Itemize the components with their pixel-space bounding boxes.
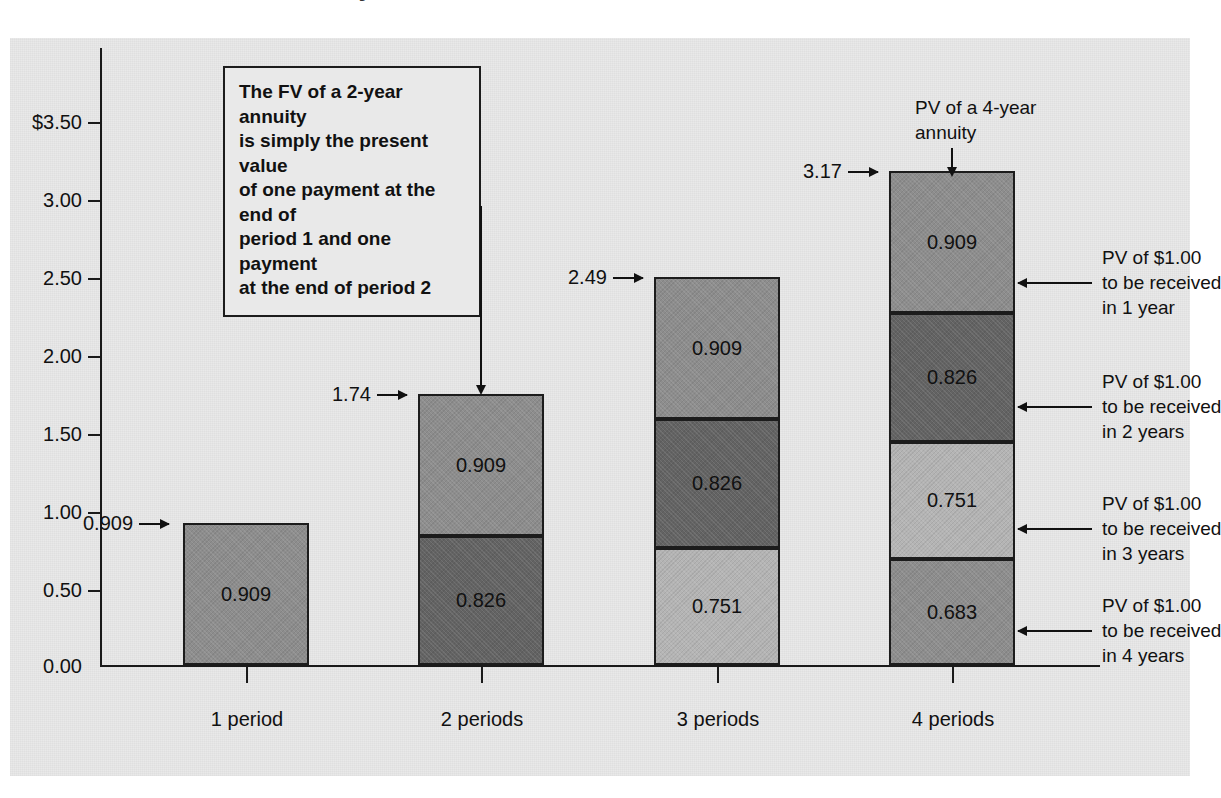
arrow-left-icon xyxy=(1018,528,1092,530)
x-category-label: 2 periods xyxy=(382,708,582,731)
annotation-pv-year-4: PV of $1.00 to be received in 4 years xyxy=(1018,593,1221,668)
annotation-text: PV of $1.00 to be received in 1 year xyxy=(1102,245,1221,320)
bar-3-periods[interactable]: 0.909 0.826 0.751 xyxy=(654,277,780,665)
annotation-line: in 2 years xyxy=(1102,421,1184,442)
arrow-down-icon xyxy=(951,148,953,168)
arrow-right-icon xyxy=(139,523,169,525)
annotation-text: PV of $1.00 to be received in 4 years xyxy=(1102,593,1221,668)
bar-segment-value: 0.683 xyxy=(927,601,977,624)
callout-connector-arrow-icon xyxy=(480,206,482,386)
annotation-pv-year-2: PV of $1.00 to be received in 2 years xyxy=(1018,369,1221,444)
arrow-left-icon xyxy=(1018,406,1092,408)
x-category-label: 3 periods xyxy=(618,708,818,731)
y-tick-mark xyxy=(88,356,102,358)
y-tick-mark xyxy=(88,590,102,592)
bar-segment-year2[interactable]: 0.826 xyxy=(418,536,544,665)
y-tick-mark xyxy=(88,278,102,280)
bar-segment-value: 0.909 xyxy=(927,231,977,254)
annotation-pv-year-3: PV of $1.00 to be received in 3 years xyxy=(1018,491,1221,566)
bar-segment-year2[interactable]: 0.826 xyxy=(889,313,1015,442)
bar-1-period[interactable]: 0.909 xyxy=(183,523,309,665)
x-tick-mark xyxy=(246,667,248,683)
y-tick-mark xyxy=(88,200,102,202)
arrow-left-icon xyxy=(1018,630,1092,632)
bar-segment-value: 0.909 xyxy=(221,583,271,606)
bar-segment-year2[interactable]: 0.826 xyxy=(654,419,780,548)
callout-box-fv-2-year-annuity: The FV of a 2-year annuity is simply the… xyxy=(223,66,481,317)
bar-segment-year1[interactable]: 0.909 xyxy=(418,394,544,536)
annotation-4-year-annuity: PV of a 4-year annuity xyxy=(915,95,1036,145)
arrow-right-icon xyxy=(848,171,878,173)
y-tick-mark xyxy=(88,434,102,436)
bar-segment-year1[interactable]: 0.909 xyxy=(183,523,309,665)
callout-line: of one payment at the end of xyxy=(239,178,465,227)
annotation-line: in 3 years xyxy=(1102,543,1184,564)
total-value: 0.909 xyxy=(83,512,133,535)
y-tick-label: 3.00 xyxy=(10,189,82,212)
total-callout-1-period: 0.909 xyxy=(83,512,169,535)
bar-segment-year1[interactable]: 0.909 xyxy=(889,171,1015,313)
callout-line: is simply the present value xyxy=(239,129,465,178)
y-tick-label: 2.00 xyxy=(10,345,82,368)
y-tick-label: 0.50 xyxy=(10,579,82,602)
annotation-line: in 1 year xyxy=(1102,297,1175,318)
bar-segment-year3[interactable]: 0.751 xyxy=(654,548,780,665)
cut-off-title: Present Value of an Annuity xyxy=(0,0,1199,34)
bar-segment-value: 0.826 xyxy=(927,366,977,389)
x-tick-mark xyxy=(717,667,719,683)
total-value: 2.49 xyxy=(568,266,607,289)
x-category-label: 4 periods xyxy=(853,708,1053,731)
plot-area: $3.50 3.00 2.50 2.00 1.50 1.00 0.50 0.00… xyxy=(10,38,1190,776)
annotation-line: PV of $1.00 xyxy=(1102,493,1201,514)
callout-line: at the end of period 2 xyxy=(239,276,465,301)
callout-line: period 1 and one payment xyxy=(239,227,465,276)
bar-2-periods[interactable]: 0.909 0.826 xyxy=(418,394,544,665)
total-callout-4-periods: 3.17 xyxy=(803,160,878,183)
total-callout-2-periods: 1.74 xyxy=(332,383,407,406)
bar-segment-year3[interactable]: 0.751 xyxy=(889,442,1015,559)
arrow-right-icon xyxy=(613,277,643,279)
annotation-line: to be received xyxy=(1102,396,1221,417)
annotation-text: PV of $1.00 to be received in 2 years xyxy=(1102,369,1221,444)
x-category-label: 1 period xyxy=(147,708,347,731)
bar-segment-value: 0.909 xyxy=(692,337,742,360)
x-tick-mark xyxy=(952,667,954,683)
annotation-line: in 4 years xyxy=(1102,645,1184,666)
y-tick-label: 0.00 xyxy=(10,655,82,678)
y-tick-label: 1.00 xyxy=(10,501,82,524)
x-axis-line xyxy=(100,665,1100,667)
bar-segment-year4[interactable]: 0.683 xyxy=(889,559,1015,665)
bar-segment-value: 0.826 xyxy=(692,472,742,495)
y-tick-label: 1.50 xyxy=(10,423,82,446)
page-title: Present Value of an Annuity xyxy=(30,0,373,3)
bar-segment-value: 0.909 xyxy=(456,454,506,477)
total-callout-3-periods: 2.49 xyxy=(568,266,643,289)
annotation-line: to be received xyxy=(1102,272,1221,293)
bar-segment-value: 0.826 xyxy=(456,589,506,612)
chart-panel: $3.50 3.00 2.50 2.00 1.50 1.00 0.50 0.00… xyxy=(10,38,1190,776)
bar-4-periods[interactable]: 0.909 0.826 0.751 0.683 xyxy=(889,171,1015,665)
annotation-text: PV of $1.00 to be received in 3 years xyxy=(1102,491,1221,566)
annotation-line: PV of $1.00 xyxy=(1102,595,1201,616)
x-tick-mark xyxy=(481,667,483,683)
annotation-line: PV of a 4-year xyxy=(915,95,1036,120)
annotation-pv-year-1: PV of $1.00 to be received in 1 year xyxy=(1018,245,1221,320)
annotation-line: annuity xyxy=(915,120,1036,145)
y-tick-label: 2.50 xyxy=(10,267,82,290)
arrow-right-icon xyxy=(377,394,407,396)
y-tick-mark xyxy=(88,122,102,124)
annotation-line: PV of $1.00 xyxy=(1102,371,1201,392)
total-value: 3.17 xyxy=(803,160,842,183)
total-value: 1.74 xyxy=(332,383,371,406)
arrow-left-icon xyxy=(1018,282,1092,284)
bar-segment-value: 0.751 xyxy=(692,595,742,618)
annotation-line: PV of $1.00 xyxy=(1102,247,1201,268)
y-tick-label: $3.50 xyxy=(10,111,82,134)
annotation-line: to be received xyxy=(1102,518,1221,539)
bar-segment-value: 0.751 xyxy=(927,489,977,512)
callout-line: The FV of a 2-year annuity xyxy=(239,80,465,129)
bar-segment-year1[interactable]: 0.909 xyxy=(654,277,780,419)
annotation-line: to be received xyxy=(1102,620,1221,641)
